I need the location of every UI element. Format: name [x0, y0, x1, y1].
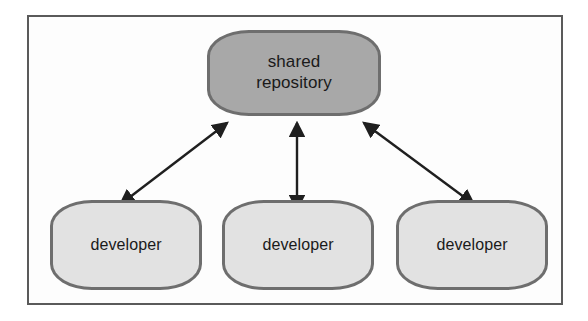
node-shared-repository-label-line2: repository — [256, 73, 332, 92]
node-developer-2: developer — [222, 200, 374, 290]
node-developer-2-label: developer — [254, 235, 341, 255]
node-shared-repository: sharedrepository — [207, 30, 381, 116]
node-developer-3-label: developer — [428, 235, 515, 255]
figure-root: sharedrepository developer developer dev… — [0, 0, 588, 321]
node-developer-3: developer — [396, 200, 548, 290]
node-shared-repository-label: sharedrepository — [248, 52, 340, 93]
node-developer-1: developer — [50, 200, 202, 290]
node-shared-repository-label-line1: shared — [268, 52, 321, 71]
node-developer-1-label: developer — [82, 235, 169, 255]
